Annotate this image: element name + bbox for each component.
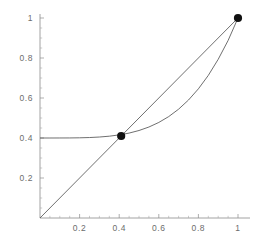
fixed-point-mid <box>117 132 125 140</box>
y-axis: 0.20.40.60.81 <box>19 13 44 218</box>
y-tick-label-0.4: 0.4 <box>19 133 33 143</box>
data-series-group <box>40 18 238 218</box>
fixed-point-end <box>234 14 242 22</box>
chart-canvas: 0.20.40.60.81 0.20.40.60.81 <box>0 0 256 246</box>
x-axis-major-ticks <box>80 214 238 218</box>
x-tick-label-0.4: 0.4 <box>112 223 126 233</box>
y-tick-label-0.2: 0.2 <box>19 173 33 183</box>
x-tick-label-1: 1 <box>235 223 240 233</box>
y-axis-major-ticks <box>40 18 44 178</box>
y-tick-label-0.8: 0.8 <box>19 53 33 63</box>
y-axis-tick-labels: 0.20.40.60.81 <box>19 13 33 183</box>
x-tick-label-0.6: 0.6 <box>152 223 166 233</box>
curve-identity-line <box>40 18 238 218</box>
y-tick-label-0.6: 0.6 <box>19 93 33 103</box>
y-tick-label-1: 1 <box>28 13 33 23</box>
x-axis-tick-labels: 0.20.40.60.81 <box>73 223 241 233</box>
plot-container: 0.20.40.60.81 0.20.40.60.81 <box>0 0 256 246</box>
x-axis: 0.20.40.60.81 <box>40 214 250 233</box>
x-tick-label-0.2: 0.2 <box>73 223 87 233</box>
curve-convex-curve <box>40 18 238 138</box>
x-tick-label-0.8: 0.8 <box>192 223 206 233</box>
